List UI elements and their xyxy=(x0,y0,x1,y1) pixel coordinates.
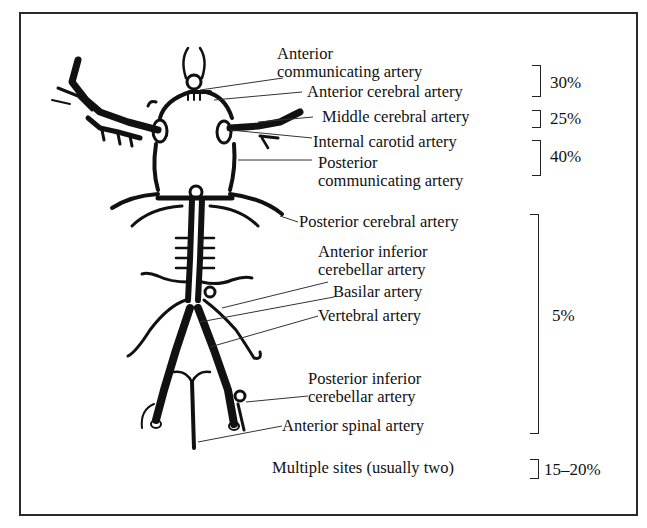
percent-40: 40% xyxy=(550,148,581,166)
bracket-25 xyxy=(532,110,541,128)
label-line: Multiple sites (usually two) xyxy=(272,458,454,477)
label-line: Internal carotid artery xyxy=(313,132,457,151)
label-line: Vertebral artery xyxy=(318,306,421,325)
label-posterior-inferior-cerebellar-artery: Posterior inferior cerebellar artery xyxy=(308,370,421,406)
bracket-5 xyxy=(530,214,539,434)
label-anterior-communicating-artery: Anterior communicating artery xyxy=(277,45,422,81)
label-line: Anterior spinal artery xyxy=(282,416,424,435)
label-line: Posterior inferior xyxy=(308,370,421,388)
label-anterior-cerebral-artery: Anterior cerebral artery xyxy=(307,83,463,101)
label-line: Anterior inferior xyxy=(318,243,428,261)
label-line: Middle cerebral artery xyxy=(322,107,470,126)
label-internal-carotid-artery: Internal carotid artery xyxy=(313,133,457,151)
label-anterior-spinal-artery: Anterior spinal artery xyxy=(282,417,424,435)
bracket-30 xyxy=(532,65,541,97)
bracket-40 xyxy=(532,140,541,176)
label-multiple-sites: Multiple sites (usually two) xyxy=(272,459,454,477)
label-basilar-artery: Basilar artery xyxy=(333,283,422,301)
percent-30: 30% xyxy=(550,74,581,92)
label-line: communicating artery xyxy=(277,63,422,81)
label-line: Anterior xyxy=(277,45,422,63)
label-line: Anterior cerebral artery xyxy=(307,82,463,101)
percent-15-20: 15–20% xyxy=(544,461,601,479)
label-line: Basilar artery xyxy=(333,282,422,301)
label-line: cerebellar artery xyxy=(308,388,421,406)
label-middle-cerebral-artery: Middle cerebral artery xyxy=(322,108,470,126)
bracket-15-20 xyxy=(530,459,539,479)
label-line: Posterior cerebral artery xyxy=(299,212,458,231)
label-posterior-communicating-artery: Posterior communicating artery xyxy=(318,154,463,190)
label-line: Posterior xyxy=(318,154,463,172)
label-anterior-inferior-cerebellar-artery: Anterior inferior cerebellar artery xyxy=(318,243,428,279)
label-posterior-cerebral-artery: Posterior cerebral artery xyxy=(299,213,458,231)
label-vertebral-artery: Vertebral artery xyxy=(318,307,421,325)
label-line: cerebellar artery xyxy=(318,261,428,279)
label-line: communicating artery xyxy=(318,172,463,190)
percent-5: 5% xyxy=(552,307,575,325)
percent-25: 25% xyxy=(550,110,581,128)
